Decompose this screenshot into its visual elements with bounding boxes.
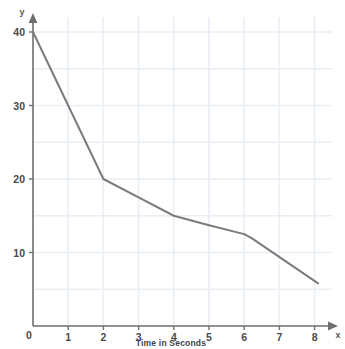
grid-vertical-lines bbox=[68, 17, 314, 326]
y-axis-ticks: 10203040 bbox=[13, 26, 33, 259]
y-axis-name-label: y bbox=[19, 7, 24, 17]
x-tick-label: 1 bbox=[65, 331, 71, 343]
y-tick-label: 20 bbox=[13, 173, 25, 185]
x-axis-name-label: x bbox=[335, 330, 340, 340]
y-axis-arrow-icon bbox=[29, 13, 38, 23]
axis-group bbox=[29, 13, 338, 330]
x-tick-label: 5 bbox=[206, 331, 212, 343]
y-tick-label: 30 bbox=[13, 100, 25, 112]
y-tick-label: 40 bbox=[13, 26, 25, 38]
y-tick-label: 10 bbox=[13, 247, 25, 259]
x-axis-title: Time in Seconds bbox=[136, 338, 206, 348]
grid-horizontal-lines bbox=[33, 32, 332, 289]
x-tick-label: 8 bbox=[312, 331, 318, 343]
x-tick-label: 7 bbox=[276, 331, 282, 343]
line-chart: 10203040 12345678 y x 0 Time in Seconds bbox=[0, 0, 345, 349]
x-tick-label: 6 bbox=[241, 331, 247, 343]
origin-tick-label: 0 bbox=[26, 329, 32, 341]
x-tick-label: 2 bbox=[100, 331, 106, 343]
data-series-line bbox=[33, 32, 318, 283]
chart-canvas: 10203040 12345678 y x 0 Time in Seconds bbox=[0, 0, 345, 349]
